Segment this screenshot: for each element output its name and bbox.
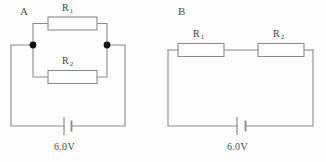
circuit-a-wire-outer-right — [72, 45, 126, 126]
circuit-a-battery-voltage-label: 6.0V — [54, 142, 75, 152]
circuit-a-wire-mid-right — [97, 45, 107, 77]
circuit-b-resistor-r2-label: R2 — [273, 29, 283, 39]
circuit-b-resistor-r1-body — [178, 44, 224, 57]
circuit-b-battery-voltage-label: 6.0V — [227, 142, 248, 152]
circuit-b-r1-base: R — [193, 28, 200, 39]
circuit-a-resistor-r2-label: R2 — [62, 56, 72, 66]
circuit-b-battery-symbol — [237, 117, 246, 135]
circuit-a-battery-symbol — [64, 117, 72, 135]
circuit-a-resistor-r1-body — [48, 17, 97, 30]
circuit-a-r2-subscript: 2 — [70, 60, 74, 68]
circuit-a-wire-top-right — [97, 24, 107, 46]
circuit-a-letter-label: A — [20, 6, 28, 17]
circuit-a-wire-top-left — [33, 24, 48, 46]
circuit-a-junction-dot-left — [30, 42, 37, 49]
circuit-a-resistor-r1-label: R1 — [62, 3, 72, 13]
circuit-a-wire-mid-left — [33, 45, 48, 77]
circuit-b-letter-label: B — [178, 6, 185, 17]
circuit-schematic-canvas — [0, 0, 326, 162]
circuit-diagram-figure: A R1 R2 6.0V B R1 R2 6.0V — [0, 0, 326, 162]
circuit-a-resistor-r2-body — [48, 71, 97, 84]
circuit-b-wire-outer-right — [246, 50, 314, 126]
circuit-b-r2-base: R — [273, 28, 280, 39]
circuit-a-r2-base: R — [62, 55, 69, 66]
circuit-a-r1-subscript: 1 — [70, 7, 74, 15]
circuit-a-junction-dot-right — [104, 42, 111, 49]
circuit-a-r1-base: R — [62, 2, 69, 13]
circuit-b-r2-subscript: 2 — [281, 33, 285, 41]
circuit-b-resistor-r2-body — [258, 44, 304, 57]
circuit-b-r1-subscript: 1 — [201, 33, 205, 41]
circuit-a-wire-outer-left — [11, 45, 64, 126]
circuit-b-group — [168, 50, 313, 126]
circuit-b-wire-outer-left — [168, 50, 237, 126]
circuit-b-resistor-r1-label: R1 — [193, 29, 203, 39]
